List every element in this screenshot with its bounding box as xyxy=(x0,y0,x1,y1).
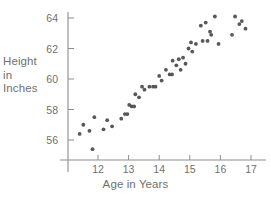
x-tick-label: 17 xyxy=(241,163,261,175)
data-point xyxy=(81,123,85,127)
data-point xyxy=(125,112,129,116)
data-point xyxy=(181,56,185,60)
data-point xyxy=(105,118,109,122)
y-tick-label: 60 xyxy=(36,73,58,85)
data-point xyxy=(88,129,92,133)
data-point xyxy=(187,47,191,51)
y-tick-label: 64 xyxy=(36,12,58,24)
data-point xyxy=(177,57,181,61)
data-points-group xyxy=(78,15,248,151)
data-point xyxy=(157,74,161,78)
x-tick-label: 14 xyxy=(149,163,169,175)
data-point xyxy=(171,59,175,63)
x-tick-label: 16 xyxy=(210,163,230,175)
data-point xyxy=(201,39,205,43)
data-point xyxy=(244,27,248,31)
data-point xyxy=(213,15,217,19)
y-tick-label: 58 xyxy=(36,104,58,116)
data-point xyxy=(179,68,183,72)
data-point xyxy=(91,147,95,151)
y-tick-label: 62 xyxy=(36,43,58,55)
data-point xyxy=(209,33,213,37)
data-point xyxy=(204,21,208,25)
data-point xyxy=(78,132,82,136)
data-point xyxy=(240,19,244,23)
data-point xyxy=(148,85,152,89)
data-point xyxy=(174,63,178,67)
data-point xyxy=(132,105,136,109)
data-point xyxy=(140,85,144,89)
data-point xyxy=(154,85,158,89)
data-point xyxy=(119,117,123,121)
data-point xyxy=(133,92,137,96)
cropped-caption-remnant xyxy=(96,202,186,211)
data-point xyxy=(237,22,241,26)
tick-marks-group xyxy=(68,18,251,160)
data-point xyxy=(230,33,234,37)
data-point xyxy=(137,95,141,99)
data-point xyxy=(143,88,147,92)
data-point xyxy=(170,73,174,77)
x-tick-label: 12 xyxy=(88,163,108,175)
data-point xyxy=(199,24,203,28)
data-point xyxy=(92,115,96,119)
data-point xyxy=(189,41,193,45)
data-point xyxy=(160,79,164,83)
scatter-plot-figure: Height in Inches Age in Years 5658606264… xyxy=(0,0,271,212)
y-tick-label: 56 xyxy=(36,134,58,146)
data-point xyxy=(164,68,168,72)
data-point xyxy=(110,124,114,128)
axes-group xyxy=(60,12,266,172)
data-point xyxy=(233,15,237,19)
x-tick-label: 15 xyxy=(180,163,200,175)
data-point xyxy=(102,127,106,131)
data-point xyxy=(217,42,221,46)
data-point xyxy=(190,50,194,54)
x-tick-label: 13 xyxy=(119,163,139,175)
data-point xyxy=(206,39,210,43)
data-point xyxy=(194,42,198,46)
data-point xyxy=(184,62,188,66)
